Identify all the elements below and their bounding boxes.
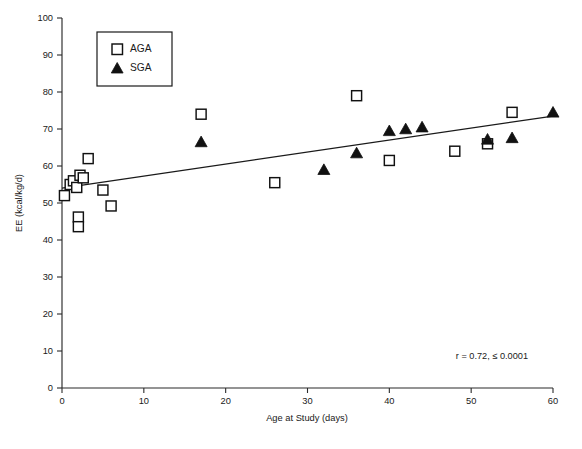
- data-series-sga: [195, 107, 559, 175]
- data-point-sga: [351, 147, 363, 158]
- legend-label-sga: SGA: [130, 62, 152, 73]
- scatter-plot: 0102030405060708090100 0102030405060 EE …: [0, 0, 582, 449]
- data-point-aga: [352, 91, 362, 101]
- data-point-aga: [106, 201, 116, 211]
- regression-line: [62, 116, 553, 188]
- y-tick-label: 30: [43, 272, 53, 282]
- chart-legend: AGA SGA: [97, 32, 172, 86]
- y-tick-label: 70: [43, 124, 53, 134]
- x-tick-label: 20: [220, 396, 230, 406]
- x-tick-label: 30: [302, 396, 312, 406]
- y-tick-label: 80: [43, 87, 53, 97]
- y-tick-label: 20: [43, 309, 53, 319]
- x-tick-label: 40: [384, 396, 394, 406]
- y-tick-label: 100: [37, 13, 53, 23]
- data-series-aga: [59, 91, 517, 232]
- data-point-sga: [416, 121, 428, 132]
- data-point-sga: [318, 164, 330, 175]
- data-point-aga: [384, 155, 394, 165]
- data-point-aga: [98, 185, 108, 195]
- legend-label-aga: AGA: [130, 43, 152, 54]
- x-tick-label: 50: [466, 396, 476, 406]
- chart-figure: 0102030405060708090100 0102030405060 EE …: [0, 0, 582, 449]
- data-point-aga: [73, 222, 83, 232]
- data-point-aga: [507, 107, 517, 117]
- legend-marker-aga-icon: [112, 44, 123, 55]
- data-point-aga: [450, 146, 460, 156]
- y-tick-label: 60: [43, 161, 53, 171]
- data-point-aga: [196, 109, 206, 119]
- y-tick-label: 90: [43, 50, 53, 60]
- data-point-sga: [400, 123, 412, 134]
- data-point-aga: [78, 173, 88, 183]
- data-point-aga: [270, 178, 280, 188]
- data-point-sga: [195, 136, 207, 147]
- x-axis-title: Age at Study (days): [266, 413, 348, 423]
- data-point-aga: [72, 182, 82, 192]
- data-point-sga: [383, 125, 395, 136]
- data-point-sga: [547, 107, 559, 118]
- x-tick-label: 10: [139, 396, 149, 406]
- y-tick-label: 40: [43, 235, 53, 245]
- data-point-aga: [83, 154, 93, 164]
- y-axis-ticks: 0102030405060708090100: [37, 13, 62, 393]
- y-tick-label: 50: [43, 198, 53, 208]
- legend-box: [97, 32, 172, 86]
- x-tick-label: 60: [548, 396, 558, 406]
- y-axis-title: EE (kcal/kg/d): [14, 174, 24, 232]
- x-axis-ticks: 0102030405060: [59, 388, 558, 406]
- data-point-aga: [59, 191, 69, 201]
- y-tick-label: 10: [43, 346, 53, 356]
- x-tick-label: 0: [59, 396, 64, 406]
- data-point-sga: [506, 132, 518, 143]
- y-tick-label: 0: [48, 383, 53, 393]
- data-point-aga: [73, 212, 83, 222]
- stats-annotation: r = 0.72, ≤ 0.0001: [456, 351, 528, 361]
